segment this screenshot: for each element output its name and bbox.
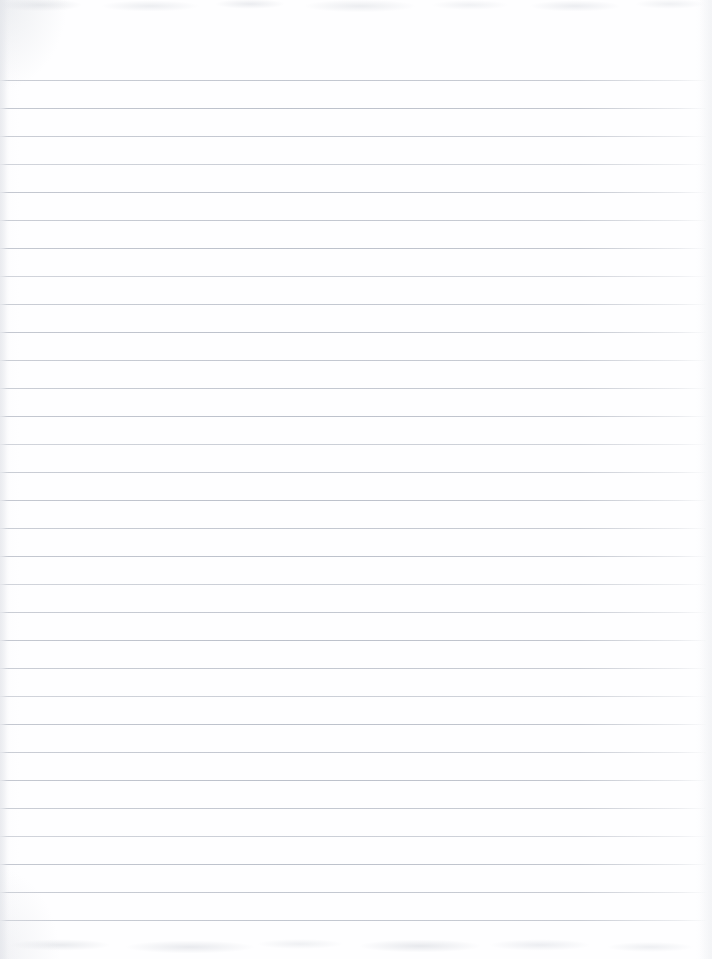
corner-shadow-bottom-left <box>0 839 80 959</box>
scan-noise-bottom-edge <box>0 931 712 959</box>
scanned-page <box>0 0 712 959</box>
paper-sheet <box>0 0 712 959</box>
edge-shadow-left <box>0 0 9 959</box>
scan-noise-top-edge <box>0 0 712 26</box>
corner-shadow-top-left <box>0 0 90 120</box>
edge-shadow-right <box>700 0 712 959</box>
